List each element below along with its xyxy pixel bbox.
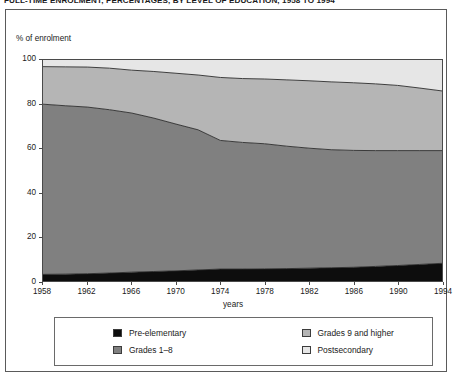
y-tick-label: 100 — [8, 55, 36, 63]
x-tick-mark — [309, 282, 310, 285]
x-tick-mark — [354, 282, 355, 285]
x-tick-label: 1966 — [111, 287, 151, 296]
y-tick-label: 20 — [8, 233, 36, 241]
x-tick-label: 1970 — [156, 287, 196, 296]
legend-item-label: Grades 1–8 — [129, 345, 173, 355]
x-tick-mark — [87, 282, 88, 285]
x-tick-mark — [398, 282, 399, 285]
legend: Pre-elementaryGrades 9 and higherGrades … — [54, 317, 433, 366]
x-axis-label: years — [6, 300, 454, 309]
x-tick-label: 1974 — [200, 287, 240, 296]
x-tick-mark — [443, 282, 444, 285]
y-tick-label: 60 — [8, 144, 36, 152]
stacked-area-chart — [43, 60, 442, 281]
legend-item[interactable]: Pre-elementary — [55, 324, 244, 342]
chart-title: FULL-TIME ENROLMENT, PERCENTAGES, BY LEV… — [4, 0, 335, 6]
chart-card: % of enrolment 020406080100 195819621966… — [5, 9, 447, 372]
y-tick-label: 0 — [8, 278, 36, 286]
legend-swatch-icon — [302, 346, 311, 354]
legend-swatch-icon — [113, 329, 122, 337]
legend-item-label: Pre-elementary — [129, 328, 186, 338]
y-tick-label: 80 — [8, 100, 36, 108]
legend-item[interactable]: Grades 9 and higher — [244, 324, 433, 342]
x-tick-mark — [42, 282, 43, 285]
legend-item[interactable]: Postsecondary — [244, 342, 433, 360]
x-tick-mark — [265, 282, 266, 285]
y-axis-label: % of enrolment — [16, 34, 71, 43]
legend-swatch-icon — [113, 346, 122, 354]
y-tick-label: 40 — [8, 189, 36, 197]
legend-item[interactable]: Grades 1–8 — [55, 342, 244, 360]
x-tick-label: 1958 — [22, 287, 62, 296]
x-tick-mark — [131, 282, 132, 285]
x-tick-label: 1990 — [378, 287, 418, 296]
x-tick-mark — [220, 282, 221, 285]
legend-item-label: Grades 9 and higher — [318, 328, 394, 338]
plot-area — [42, 59, 443, 282]
x-tick-label: 1962 — [67, 287, 107, 296]
legend-swatch-icon — [302, 329, 311, 337]
x-tick-label: 1994 — [423, 287, 454, 296]
x-tick-mark — [176, 282, 177, 285]
legend-item-label: Postsecondary — [318, 345, 373, 355]
x-tick-label: 1986 — [334, 287, 374, 296]
x-tick-label: 1982 — [289, 287, 329, 296]
legend-grid: Pre-elementaryGrades 9 and higherGrades … — [55, 318, 432, 365]
x-tick-label: 1978 — [245, 287, 285, 296]
